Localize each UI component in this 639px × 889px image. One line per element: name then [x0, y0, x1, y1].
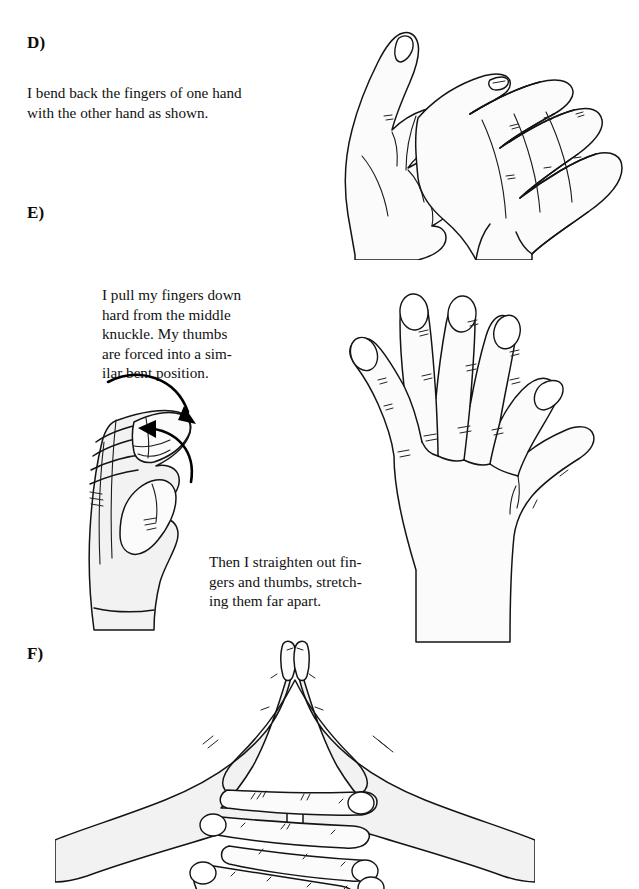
section-label-e: E): [27, 203, 44, 223]
document-page: D) I bend back the fingers of one hand w…: [0, 0, 639, 889]
illustration-hand-with-bent-fingers-and-arrows: [60, 368, 250, 633]
illustration-open-hand-fingers-spread: [320, 270, 639, 645]
section-label-d: D): [27, 33, 45, 53]
illustration-two-hands-interlocked-fingers: [55, 640, 535, 889]
section-d-instruction-text: I bend back the fingers of one hand with…: [27, 83, 327, 122]
section-label-f: F): [27, 644, 43, 664]
illustration-two-hands-bending-fingers-back: [300, 10, 639, 260]
